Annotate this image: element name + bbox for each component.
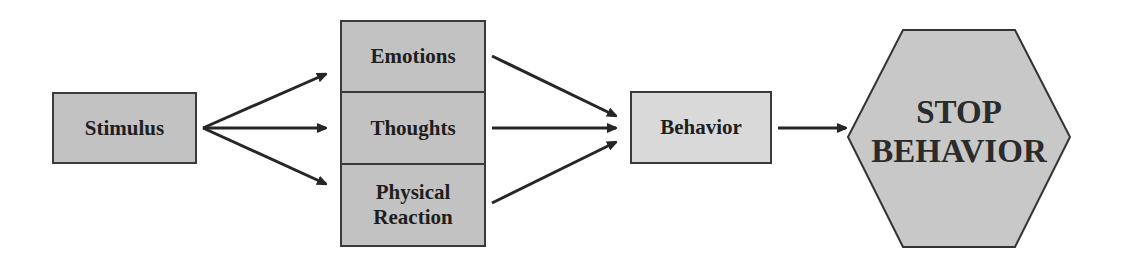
emotions-node: Emotions xyxy=(340,20,486,93)
stop-behavior-label: STOP BEHAVIOR xyxy=(848,93,1070,171)
stimulus-label: Stimulus xyxy=(85,116,164,141)
thoughts-label: Thoughts xyxy=(370,116,455,141)
behavior-node: Behavior xyxy=(630,91,772,164)
stimulus-node: Stimulus xyxy=(52,92,197,164)
arrow-stimulus-emotions xyxy=(203,74,326,128)
stop-label-line1: STOP xyxy=(848,93,1070,132)
physical-reaction-node: Physical Reaction xyxy=(340,163,486,247)
arrow-physical-behavior xyxy=(492,142,616,203)
physical-reaction-label-line1: Physical xyxy=(376,180,451,205)
stop-label-line2: BEHAVIOR xyxy=(848,132,1070,171)
arrow-stimulus-physical xyxy=(203,128,326,184)
physical-reaction-label-line2: Reaction xyxy=(373,205,452,230)
behavior-label: Behavior xyxy=(660,115,742,140)
arrow-emotions-behavior xyxy=(492,56,616,116)
emotions-label: Emotions xyxy=(370,44,455,69)
thoughts-node: Thoughts xyxy=(340,91,486,165)
